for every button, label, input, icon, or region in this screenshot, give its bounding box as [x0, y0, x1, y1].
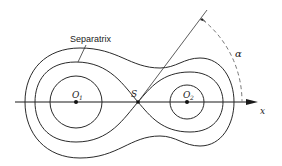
saddle-point — [136, 100, 140, 104]
separatrix-diagram: Separatrix S O 1 O 2 x α — [0, 0, 282, 166]
x-axis-label: x — [260, 106, 265, 116]
focus-point-2 — [185, 100, 189, 104]
x-axis-arrow-icon — [246, 99, 258, 105]
focus-2-subscript: 2 — [189, 94, 194, 101]
angle-alpha-label: α — [235, 48, 242, 59]
angle-arc — [203, 20, 242, 102]
outer-orbit — [25, 48, 234, 158]
focus-point-1 — [74, 100, 78, 104]
separatrix-label: Separatrix — [70, 34, 112, 44]
saddle-label: S — [131, 89, 137, 99]
focus-1-subscript: 1 — [79, 94, 83, 101]
